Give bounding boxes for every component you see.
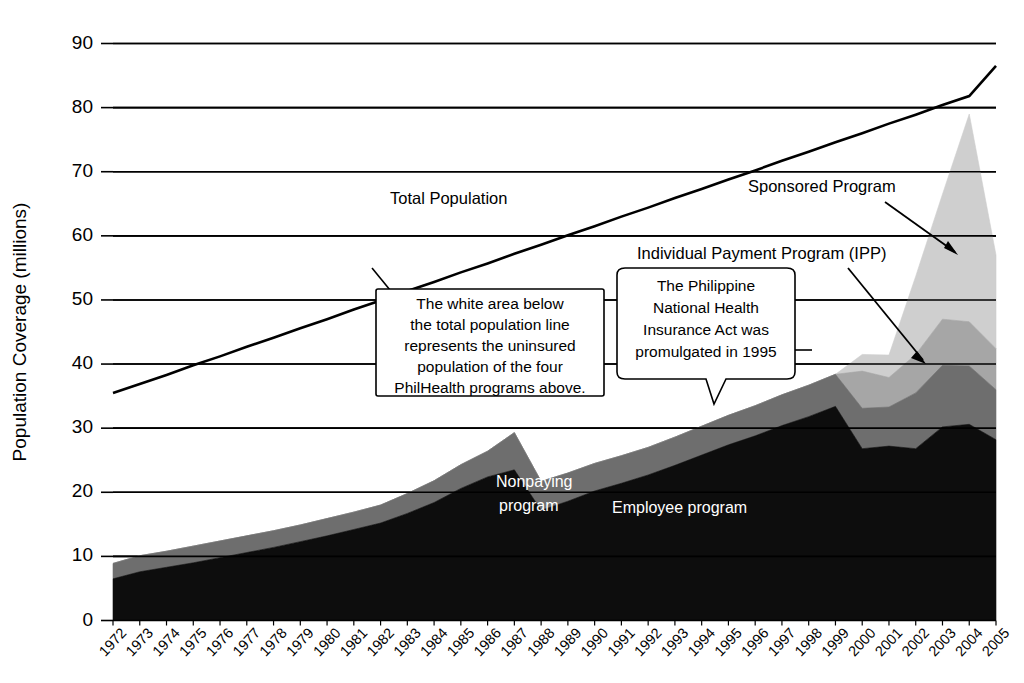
label-ipp: Individual Payment Program (IPP) — [637, 244, 886, 262]
callout-act-line-2: National Health — [653, 299, 759, 316]
y-tick-label-80: 80 — [72, 96, 93, 117]
y-tick-label-50: 50 — [72, 288, 93, 309]
chart-page: 0102030405060708090 19721973197419751976… — [0, 0, 1024, 683]
callout-act-line-4: promulgated in 1995 — [635, 343, 776, 360]
callout-white-area-line-1: The white area below — [416, 295, 564, 312]
callout-white-area-line-3: represents the uninsured — [404, 337, 575, 354]
label-sponsored-program: Sponsored Program — [748, 177, 896, 195]
y-axis-title: Population Coverage (millions) — [9, 203, 30, 462]
label-total-population: Total Population — [390, 189, 507, 207]
y-tick-label-70: 70 — [72, 160, 93, 181]
callout-white-area-line-4: population of the four — [417, 358, 563, 375]
y-tick-label-90: 90 — [72, 32, 93, 53]
label-nonpaying-line-2: program — [499, 497, 559, 514]
label-nonpaying-line-1: Nonpaying — [496, 473, 573, 490]
callout-white-area-line-2: the total population line — [410, 316, 569, 333]
stacked-area-chart: 0102030405060708090 19721973197419751976… — [0, 0, 1024, 683]
y-tick-label-30: 30 — [72, 416, 93, 437]
y-tick-label-0: 0 — [82, 609, 93, 630]
y-tick-label-60: 60 — [72, 224, 93, 245]
y-tick-label-10: 10 — [72, 544, 93, 565]
y-tick-label-40: 40 — [72, 352, 93, 373]
callout-act-line-1: The Philippine — [657, 277, 755, 294]
y-tick-label-20: 20 — [72, 480, 93, 501]
label-employee-program: Employee program — [612, 499, 747, 516]
callout-white-area-line-5: PhilHealth programs above. — [394, 379, 585, 396]
callout-act-line-3: Insurance Act was — [643, 321, 769, 338]
